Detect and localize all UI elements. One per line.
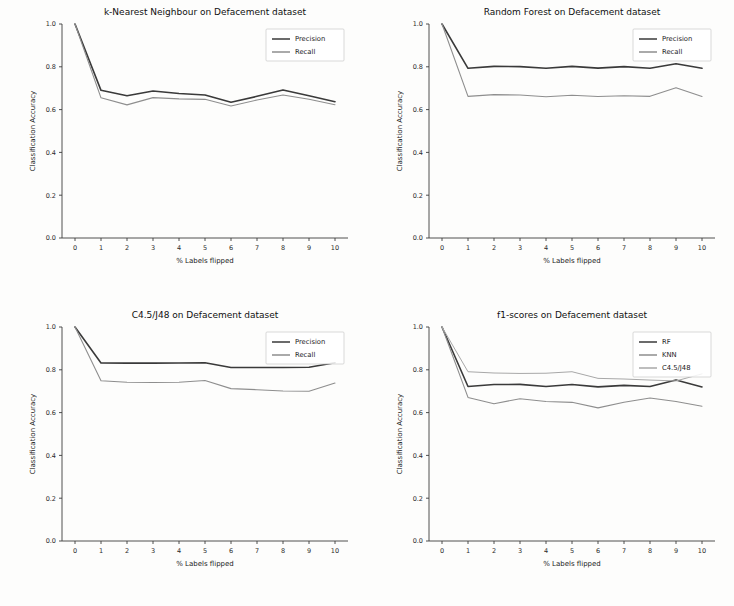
legend-label: Precision [295, 338, 325, 346]
y-tick-label: 0.0 [413, 537, 423, 545]
x-tick-label: 5 [570, 244, 574, 252]
legend-label: Recall [295, 351, 315, 359]
x-tick-label: 8 [281, 547, 285, 555]
x-tick-label: 2 [125, 244, 129, 252]
x-tick-label: 10 [331, 244, 339, 252]
y-tick-label: 0.8 [413, 366, 423, 374]
x-tick-label: 1 [99, 547, 103, 555]
y-axis-label: Classification Accuracy [396, 91, 404, 172]
y-tick-label: 0.8 [46, 63, 56, 71]
x-tick-label: 0 [440, 244, 444, 252]
y-tick-label: 0.4 [413, 149, 423, 157]
y-tick-label: 0.8 [46, 366, 56, 374]
x-tick-label: 8 [281, 244, 285, 252]
legend-label: RF [662, 338, 671, 346]
x-tick-label: 7 [622, 244, 626, 252]
y-tick-label: 0.2 [413, 495, 423, 503]
y-axis-label: Classification Accuracy [396, 394, 404, 475]
x-tick-label: 4 [177, 244, 181, 252]
y-tick-label: 0.6 [46, 106, 56, 114]
x-tick-label: 1 [466, 244, 470, 252]
x-tick-label: 0 [440, 547, 444, 555]
chart-panel-knn: k-Nearest Neighbour on Defacement datase… [0, 0, 367, 303]
x-tick-label: 9 [674, 547, 678, 555]
chart-panel-random-forest: Random Forest on Defacement dataset0.00.… [367, 0, 734, 303]
x-tick-label: 2 [125, 547, 129, 555]
y-tick-label: 1.0 [46, 323, 56, 331]
x-tick-label: 5 [570, 547, 574, 555]
y-tick-label: 0.4 [46, 452, 56, 460]
y-tick-label: 0.0 [46, 234, 56, 242]
x-tick-label: 7 [255, 547, 259, 555]
y-axis-label: Classification Accuracy [29, 91, 37, 172]
x-axis-label: % Labels flipped [543, 560, 601, 568]
x-tick-label: 3 [518, 547, 522, 555]
legend-label: Precision [662, 35, 692, 43]
chart-svg: Random Forest on Defacement dataset0.00.… [367, 0, 734, 303]
x-tick-label: 7 [255, 244, 259, 252]
x-tick-label: 5 [203, 244, 207, 252]
x-tick-label: 6 [229, 547, 233, 555]
x-tick-label: 9 [674, 244, 678, 252]
legend-label: C4.5/J48 [662, 364, 691, 372]
x-tick-label: 6 [596, 547, 600, 555]
x-tick-label: 9 [307, 547, 311, 555]
y-tick-label: 0.6 [46, 409, 56, 417]
x-tick-label: 7 [622, 547, 626, 555]
x-tick-label: 10 [698, 547, 706, 555]
chart-title: f1-scores on Defacement dataset [497, 310, 647, 320]
x-tick-label: 1 [99, 244, 103, 252]
y-tick-label: 0.4 [413, 452, 423, 460]
chart-svg: k-Nearest Neighbour on Defacement datase… [0, 0, 367, 303]
y-tick-label: 0.4 [46, 149, 56, 157]
legend-label: KNN [662, 351, 677, 359]
y-axis-label: Classification Accuracy [29, 394, 37, 475]
y-tick-label: 0.6 [413, 106, 423, 114]
x-tick-label: 4 [544, 547, 548, 555]
chart-grid: k-Nearest Neighbour on Defacement datase… [0, 0, 734, 606]
x-axis-label: % Labels flipped [543, 257, 601, 265]
y-tick-label: 1.0 [413, 323, 423, 331]
x-tick-label: 6 [229, 244, 233, 252]
x-tick-label: 10 [698, 244, 706, 252]
legend-label: Precision [295, 35, 325, 43]
legend-label: Recall [295, 48, 315, 56]
x-tick-label: 4 [177, 547, 181, 555]
x-tick-label: 2 [492, 244, 496, 252]
chart-panel-f1-scores: f1-scores on Defacement dataset0.00.20.4… [367, 303, 734, 606]
chart-title: k-Nearest Neighbour on Defacement datase… [104, 7, 307, 17]
chart-svg: C4.5/J48 on Defacement dataset0.00.20.40… [0, 303, 367, 606]
y-tick-label: 0.0 [46, 537, 56, 545]
x-tick-label: 8 [648, 547, 652, 555]
x-tick-label: 3 [151, 547, 155, 555]
x-tick-label: 0 [73, 547, 77, 555]
x-tick-label: 4 [544, 244, 548, 252]
x-tick-label: 9 [307, 244, 311, 252]
x-tick-label: 0 [73, 244, 77, 252]
figure-canvas: k-Nearest Neighbour on Defacement datase… [0, 0, 734, 606]
y-tick-label: 0.2 [413, 192, 423, 200]
chart-title: C4.5/J48 on Defacement dataset [132, 310, 279, 320]
x-tick-label: 8 [648, 244, 652, 252]
x-tick-label: 6 [596, 244, 600, 252]
chart-panel-c45-j48: C4.5/J48 on Defacement dataset0.00.20.40… [0, 303, 367, 606]
x-tick-label: 2 [492, 547, 496, 555]
y-tick-label: 1.0 [46, 20, 56, 28]
y-tick-label: 0.6 [413, 409, 423, 417]
x-axis-label: % Labels flipped [176, 257, 234, 265]
y-tick-label: 0.2 [46, 495, 56, 503]
chart-svg: f1-scores on Defacement dataset0.00.20.4… [367, 303, 734, 606]
y-tick-label: 1.0 [413, 20, 423, 28]
y-tick-label: 0.0 [413, 234, 423, 242]
x-tick-label: 10 [331, 547, 339, 555]
y-tick-label: 0.8 [413, 63, 423, 71]
chart-title: Random Forest on Defacement dataset [484, 7, 661, 17]
x-tick-label: 3 [151, 244, 155, 252]
x-tick-label: 5 [203, 547, 207, 555]
x-tick-label: 3 [518, 244, 522, 252]
x-axis-label: % Labels flipped [176, 560, 234, 568]
y-tick-label: 0.2 [46, 192, 56, 200]
x-tick-label: 1 [466, 547, 470, 555]
legend-label: Recall [662, 48, 682, 56]
